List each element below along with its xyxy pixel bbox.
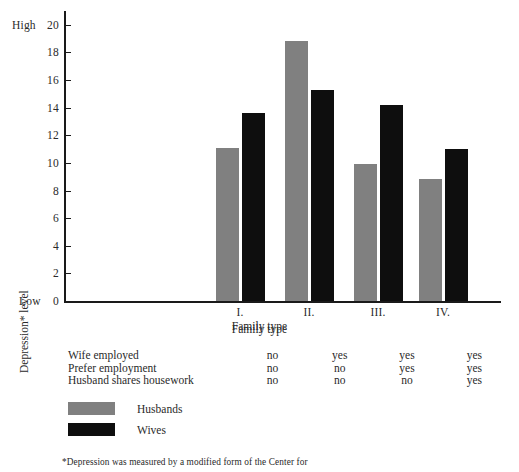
- chart-plot-area: 02468101214161820 High Low Depression* l…: [0, 0, 519, 320]
- condition-value-r3-c2: no: [306, 374, 373, 387]
- condition-value-r3-c4: yes: [441, 374, 508, 387]
- legend-label-husbands: Husbands: [137, 403, 182, 415]
- condition-value-r1-c2: yes: [306, 349, 373, 362]
- condition-table-header: Family type: [0, 323, 519, 335]
- bar-wives-group-4: [445, 149, 468, 301]
- condition-value-r2-c4: yes: [441, 362, 508, 375]
- condition-value-r1-c3: yes: [373, 349, 440, 362]
- condition-table: Wife employednoyesyesyesPrefer employmen…: [68, 349, 508, 387]
- condition-value-r1-c1: no: [239, 349, 306, 362]
- legend-item-husbands: Husbands: [68, 398, 182, 419]
- condition-value-r2-c2: no: [306, 362, 373, 375]
- condition-row-label: Husband shares housework: [68, 374, 239, 387]
- condition-row: Husband shares houseworknononoyes: [68, 374, 508, 387]
- bar-husbands-group-2: [285, 41, 308, 301]
- condition-value-r3-c3: no: [373, 374, 440, 387]
- bar-wives-group-3: [380, 105, 403, 301]
- legend-item-wives: Wives: [68, 419, 182, 440]
- x-group-label-4: IV.: [423, 306, 463, 318]
- legend-label-wives: Wives: [137, 424, 166, 436]
- x-group-label-1: I.: [220, 306, 260, 318]
- condition-value-r2-c3: yes: [373, 362, 440, 375]
- bars-layer: [0, 0, 519, 301]
- condition-row: Wife employednoyesyesyes: [68, 349, 508, 362]
- condition-value-r3-c1: no: [239, 374, 306, 387]
- x-axis-line: [64, 301, 501, 303]
- bar-husbands-group-1: [216, 148, 239, 301]
- condition-row-label: Prefer employment: [68, 362, 239, 375]
- x-group-label-3: III.: [358, 306, 398, 318]
- bar-husbands-group-4: [419, 179, 442, 301]
- bar-wives-group-1: [242, 113, 265, 301]
- condition-row-label: Wife employed: [68, 349, 239, 362]
- condition-value-r1-c4: yes: [441, 349, 508, 362]
- y-tick-0: [64, 301, 71, 302]
- condition-row: Prefer employmentnonoyesyes: [68, 362, 508, 375]
- x-group-label-2: II.: [289, 306, 329, 318]
- bar-wives-group-2: [311, 90, 334, 301]
- chart-legend: HusbandsWives: [68, 398, 182, 440]
- bar-husbands-group-3: [354, 164, 377, 301]
- legend-swatch-husbands: [68, 402, 115, 415]
- chart-footnote: *Depression was measured by a modified f…: [62, 457, 308, 467]
- legend-swatch-wives: [68, 423, 115, 436]
- condition-value-r2-c1: no: [239, 362, 306, 375]
